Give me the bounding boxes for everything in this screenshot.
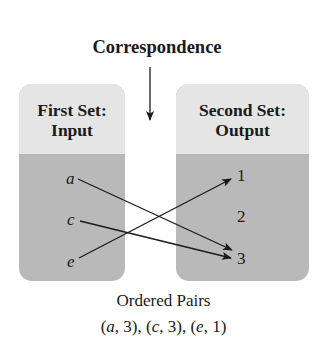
first-set-box: First Set: Input a c e: [19, 84, 125, 281]
second-set-body: 1 2 3: [176, 154, 309, 281]
second-set-header: Second Set: Output: [176, 84, 309, 154]
ordered-pairs-label: Ordered Pairs: [0, 291, 327, 311]
second-set-box: Second Set: Output 1 2 3: [176, 84, 309, 281]
first-set-sublabel: Input: [51, 120, 93, 140]
second-set-sublabel: Output: [215, 120, 269, 140]
pair-2: (c, 3): [146, 317, 182, 336]
first-set-body: a c e: [19, 154, 125, 281]
output-element-3: 3: [237, 250, 246, 268]
input-element-a: a: [66, 170, 75, 188]
first-set-header: First Set: Input: [19, 84, 125, 154]
ordered-pairs-list: (a, 3), (c, 3), (e, 1): [0, 317, 327, 337]
pair-1: (a, 3): [101, 317, 138, 336]
second-set-label: Second Set:: [199, 100, 286, 120]
input-element-e: e: [67, 253, 75, 271]
input-element-c: c: [67, 211, 75, 229]
diagram-title: Correspondence: [0, 36, 314, 58]
first-set-label: First Set:: [37, 100, 107, 120]
pair-separator: ,: [138, 317, 147, 336]
pair-3: (e, 1): [190, 317, 226, 336]
output-element-2: 2: [237, 208, 246, 226]
output-element-1: 1: [237, 167, 246, 185]
